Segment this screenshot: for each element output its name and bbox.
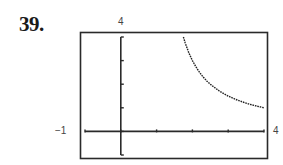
axes: [85, 37, 264, 155]
tick-marks: [85, 37, 264, 155]
viewing-window-frame: [81, 33, 268, 159]
function-curve: [183, 37, 264, 108]
graph-plot: [0, 0, 283, 165]
